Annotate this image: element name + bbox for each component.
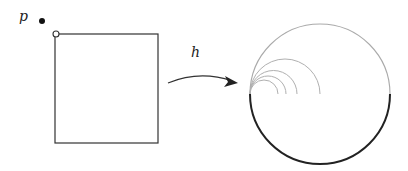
- square-domain: [55, 34, 158, 143]
- point-p-marker: [39, 18, 45, 24]
- map-arrow: [168, 76, 238, 87]
- disk-upper-boundary: [250, 24, 390, 94]
- label-p: p: [19, 8, 28, 24]
- disk-lower-boundary: [250, 94, 390, 164]
- label-h: h: [191, 44, 200, 60]
- arrow-head-icon: [224, 76, 238, 87]
- arrow-shaft: [168, 76, 232, 83]
- corner-open-circle: [53, 31, 59, 37]
- inner-arcs: [250, 59, 320, 94]
- diagram-canvas: p h: [0, 0, 408, 171]
